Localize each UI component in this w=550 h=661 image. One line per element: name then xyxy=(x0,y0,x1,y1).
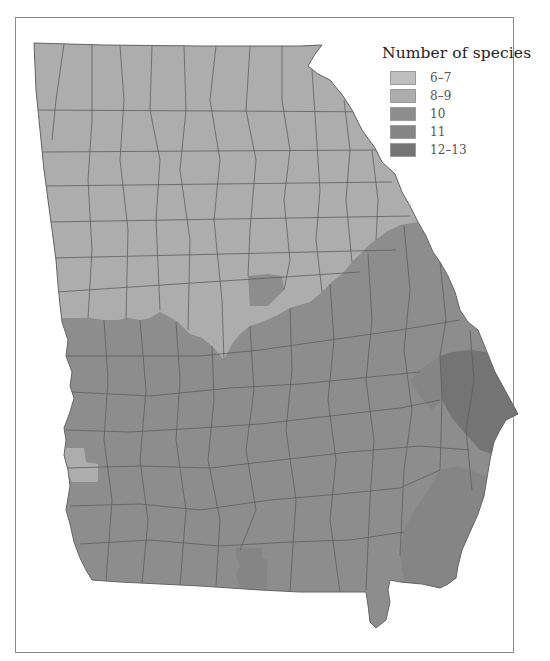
legend-item-11: 11 xyxy=(390,123,542,141)
legend-item-10: 10 xyxy=(390,105,542,123)
legend-title: Number of species xyxy=(382,44,542,62)
legend-label: 10 xyxy=(430,107,445,121)
legend-label: 12–13 xyxy=(430,143,467,157)
legend-swatch xyxy=(390,143,416,157)
legend-label: 11 xyxy=(430,125,445,139)
legend-item-6-7: 6–7 xyxy=(390,69,542,87)
legend-swatch xyxy=(390,89,416,103)
legend-label: 8–9 xyxy=(430,89,451,103)
legend-swatch xyxy=(390,107,416,121)
legend-label: 6–7 xyxy=(430,71,451,85)
legend-swatch xyxy=(390,125,416,139)
legend-item-8-9: 8–9 xyxy=(390,87,542,105)
legend-item-12-13: 12–13 xyxy=(390,141,542,159)
legend: Number of species 6–7 8–9 10 11 12–13 xyxy=(382,44,542,159)
legend-swatch xyxy=(390,71,416,85)
